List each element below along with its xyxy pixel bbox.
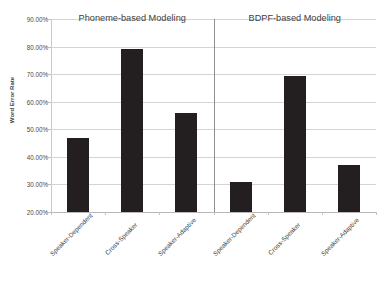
x-axis-tick-mark [322,212,323,215]
bar [67,138,89,212]
bar [284,76,306,212]
word-error-rate-bar-chart: Word Error Rate 90.00%80.00%70.00%60.00%… [0,0,386,283]
x-axis-category-label: Speaker-Dependent [211,221,247,257]
y-axis-tick-label: 40.00% [14,153,48,160]
y-axis-tick-label: 50.00% [14,126,48,133]
y-axis-tick-label: 60.00% [14,98,48,105]
x-axis-tick-mark [376,212,377,215]
y-axis-tick-label: 30.00% [14,181,48,188]
panel-title: Phoneme-based Modeling [79,13,186,23]
y-axis-tick-mark [47,47,51,48]
y-axis-tick-mark [47,157,51,158]
x-axis-category-label: Cross-Speaker [103,221,139,257]
y-axis-line [51,19,52,212]
bar [338,165,360,212]
x-axis-tick-mark [268,212,269,215]
panel-title: BDPF-based Modeling [249,13,341,23]
plot-area [51,19,376,212]
y-axis-tick-label: 70.00% [14,71,48,78]
x-axis-tick-mark [159,212,160,215]
y-axis-tick-mark [47,129,51,130]
panel-divider [214,19,215,213]
y-axis-tick-mark [47,74,51,75]
y-axis-tick-label: 80.00% [14,43,48,50]
x-axis-category-labels: Speaker-DependentCross-SpeakerSpeaker-Ad… [51,212,376,283]
bar [230,182,252,212]
x-axis-category-label: Speaker-Adaptive [157,221,193,257]
bar [121,49,143,212]
y-axis-tick-label: 90.00% [14,16,48,23]
y-axis-tick-mark [47,184,51,185]
y-axis-tick-label: 20.00% [14,209,48,216]
x-axis-tick-mark [214,212,215,215]
x-axis-category-label: Speaker-Dependent [49,221,85,257]
bar [175,113,197,212]
x-axis-category-label: Cross-Speaker [265,221,301,257]
y-axis-tick-mark [47,19,51,20]
x-axis-category-label: Speaker-Adaptive [319,221,355,257]
y-axis-tick-mark [47,102,51,103]
x-axis-tick-mark [51,212,52,215]
y-axis-tick-labels: 90.00%80.00%70.00%60.00%50.00%40.00%30.0… [12,0,48,283]
x-axis-tick-mark [105,212,106,215]
